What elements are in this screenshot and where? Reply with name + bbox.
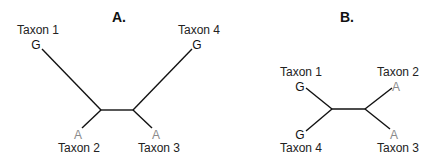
character-state: G	[295, 128, 304, 142]
panel-a-tree: A. Taxon 1 G Taxon 4 G A Taxon 2 A Taxon…	[17, 9, 220, 155]
branch-taxon3	[133, 110, 152, 128]
branch-taxon1	[42, 49, 101, 110]
taxon-label: Taxon 4	[178, 23, 220, 37]
character-state: A	[74, 128, 82, 142]
taxon-label: Taxon 2	[377, 65, 419, 79]
taxon-label: Taxon 3	[138, 141, 180, 155]
panel-b-tree: B. Taxon 1 G Taxon 2 A G Taxon 4 A Taxon…	[280, 9, 419, 155]
character-state: G	[31, 38, 40, 52]
branch-taxon3	[365, 109, 390, 129]
taxon-label: Taxon 1	[280, 65, 322, 79]
character-state: G	[295, 80, 304, 94]
taxon-label: Taxon 3	[377, 141, 419, 155]
phylogeny-figure: A. Taxon 1 G Taxon 4 G A Taxon 2 A Taxon…	[0, 0, 438, 161]
branch-taxon4	[306, 109, 332, 131]
character-state: A	[152, 128, 160, 142]
character-state: A	[392, 80, 400, 94]
character-state: G	[192, 38, 201, 52]
character-state: A	[390, 128, 398, 142]
taxon-label: Taxon 4	[280, 141, 322, 155]
branch-taxon1	[306, 88, 332, 109]
branch-taxon2	[365, 88, 392, 109]
branch-taxon4	[133, 49, 192, 110]
branch-taxon2	[82, 110, 101, 128]
taxon-label: Taxon 1	[17, 23, 59, 37]
panel-a-title: A.	[112, 9, 126, 25]
taxon-label: Taxon 2	[58, 141, 100, 155]
panel-b-title: B.	[340, 9, 354, 25]
